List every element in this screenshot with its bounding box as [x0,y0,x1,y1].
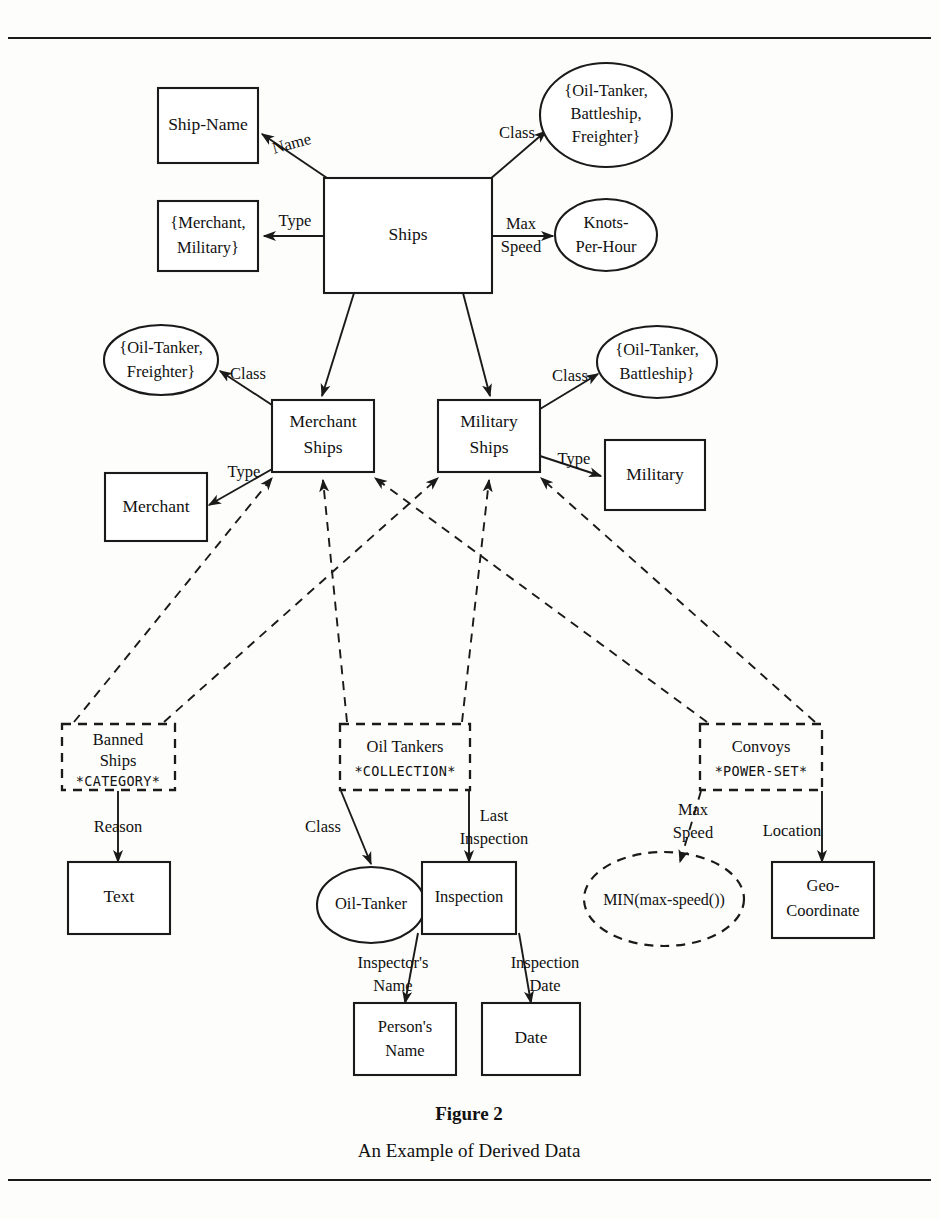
node-merchant-ships-line1: Merchant [289,411,356,431]
node-geo-coordinate[interactable]: Geo- Coordinate [772,862,874,938]
node-banned-ships-line1: Banned [93,730,144,749]
edge-label-military-type: Type [558,449,591,468]
node-ships[interactable]: Ships [324,178,492,293]
edge-label-banned-reason: Reason [94,817,143,836]
node-min-max-speed[interactable]: MIN(max-speed()) [584,852,744,946]
node-persons-name[interactable]: Person's Name [354,1003,456,1075]
node-type-enum[interactable]: {Merchant, Military} [158,201,258,271]
edge-label-inspection-inspectiondate-line1: Inspection [511,953,580,972]
node-knots-per-hour[interactable]: Knots- Per-Hour [555,199,657,271]
edge-label-merchant-class: Class [230,364,266,383]
node-convoys-stereotype: *POWER-SET* [715,763,808,779]
node-class-enum-all-line2: Battleship, [570,104,641,123]
edge-label-military-class: Class [552,366,588,385]
node-oil-tankers-stereotype: *COLLECTION* [354,763,455,779]
node-type-enum-line2: Military} [177,238,239,257]
edge-label-merchant-type: Type [228,462,261,481]
entity-relationship-diagram: Ship-Name {Merchant, Military} Ships {Oi… [0,0,939,1219]
node-date-label: Date [514,1027,547,1047]
node-banned-ships-stereotype: *CATEGORY* [76,773,160,789]
node-oil-tanker-label: Oil-Tanker [335,894,408,913]
node-convoys-line1: Convoys [732,737,791,756]
edge-label-inspection-inspectiondate-line2: Date [529,976,560,995]
node-class-enum-all[interactable]: {Oil-Tanker, Battleship, Freighter} [540,63,672,167]
node-ship-name[interactable]: Ship-Name [158,88,258,163]
edge-label-ships-maxspeed-line1: Max [506,214,537,233]
node-text-label: Text [104,886,135,906]
node-persons-name-line1: Person's [378,1017,432,1036]
edge-oiltankers-to-merchant-ships [323,480,347,722]
node-text[interactable]: Text [68,862,170,934]
node-merchant[interactable]: Merchant [105,473,207,541]
node-inspection-label: Inspection [435,887,504,906]
node-geo-coordinate-line2: Coordinate [786,901,859,920]
node-persons-name-line2: Name [385,1041,424,1060]
figure-container: Ship-Name {Merchant, Military} Ships {Oi… [0,0,939,1219]
node-military-label: Military [626,464,684,484]
edge-label-oiltankers-class: Class [305,817,341,836]
node-military-ships-line2: Ships [470,437,509,457]
node-type-enum-line1: {Merchant, [170,213,245,232]
node-ships-label: Ships [389,224,428,244]
edge-oiltankers-to-military-ships [462,480,489,722]
edge-oiltankers-class [341,791,371,864]
node-class-enum-all-line3: Freighter} [572,127,640,146]
node-class-enum-merchant-line2: Freighter} [127,362,195,381]
node-min-max-speed-label: MIN(max-speed()) [603,891,725,909]
edge-ships-military-ships [463,293,490,396]
edge-label-convoys-location: Location [763,821,822,840]
node-military-ships[interactable]: Military Ships [438,400,540,472]
edge-label-ships-class: Class [499,123,535,142]
node-merchant-label: Merchant [122,496,189,516]
node-oil-tanker[interactable]: Oil-Tanker [317,867,425,943]
edge-label-inspection-inspectorsname-line2: Name [373,976,412,995]
edge-label-oiltankers-lastinspection-line2: Inspection [460,829,529,848]
node-banned-ships-line2: Ships [100,751,137,770]
node-military-ships-line1: Military [460,411,518,431]
edge-convoys-to-military-ships [541,478,815,722]
edge-label-ships-type: Type [279,211,312,230]
node-class-enum-all-line1: {Oil-Tanker, [564,81,648,100]
node-knots-line2: Per-Hour [575,237,637,256]
node-class-enum-military-line2: Battleship} [620,364,695,383]
edge-label-convoys-maxspeed-line1: Max [678,800,709,819]
node-oil-tankers[interactable]: Oil Tankers *COLLECTION* [340,724,470,790]
edge-ships-merchant-ships [322,293,354,396]
node-ship-name-label: Ship-Name [168,114,248,134]
node-banned-ships[interactable]: Banned Ships *CATEGORY* [62,724,175,790]
node-military[interactable]: Military [605,440,705,510]
node-class-enum-military[interactable]: {Oil-Tanker, Battleship} [597,326,717,398]
node-convoys[interactable]: Convoys *POWER-SET* [700,724,822,790]
node-geo-coordinate-line1: Geo- [807,876,840,895]
edge-convoys-to-merchant-ships [375,478,707,722]
node-class-enum-merchant[interactable]: {Oil-Tanker, Freighter} [104,325,218,395]
node-date[interactable]: Date [482,1003,580,1075]
node-knots-line1: Knots- [584,213,629,232]
node-merchant-ships-line2: Ships [304,437,343,457]
node-class-enum-military-line1: {Oil-Tanker, [615,340,699,359]
node-class-enum-merchant-line1: {Oil-Tanker, [119,338,203,357]
figure-caption-subtitle: An Example of Derived Data [358,1140,581,1161]
edge-label-inspection-inspectorsname-line1: Inspector's [358,953,429,972]
edge-label-convoys-maxspeed-line2: Speed [673,823,714,842]
edge-label-ships-maxspeed-line2: Speed [501,237,542,256]
node-inspection[interactable]: Inspection [422,862,516,934]
node-merchant-ships[interactable]: Merchant Ships [272,400,374,472]
figure-caption-title: Figure 2 [435,1103,503,1124]
node-oil-tankers-line1: Oil Tankers [367,737,444,756]
edge-label-oiltankers-lastinspection-line1: Last [480,806,509,825]
